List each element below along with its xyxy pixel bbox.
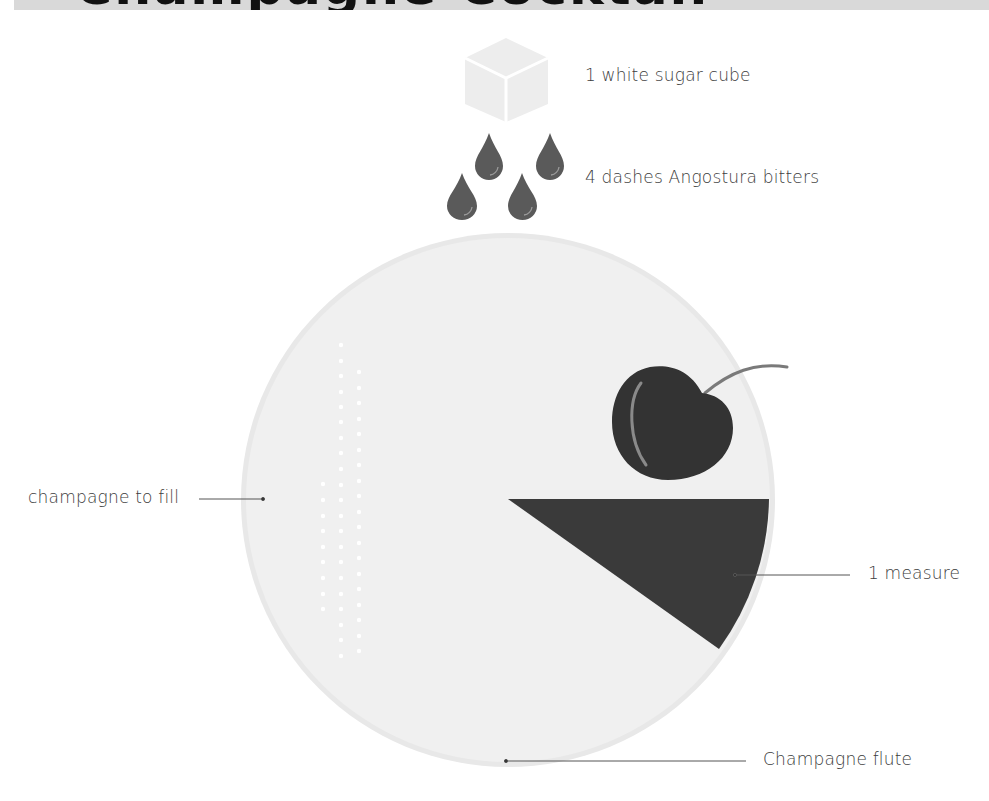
champagne-flute-label: Champagne flute bbox=[763, 749, 912, 769]
champagne-fill-label: champagne to fill bbox=[28, 487, 179, 507]
measure-label: 1 measure bbox=[868, 563, 960, 583]
bitters-label: 4 dashes Angostura bitters bbox=[585, 167, 819, 187]
sugar-cube-icon bbox=[465, 38, 548, 122]
bitters-drops-icon bbox=[447, 133, 564, 220]
cocktail-diagram bbox=[0, 0, 989, 801]
sugar-cube-label: 1 white sugar cube bbox=[585, 65, 751, 85]
